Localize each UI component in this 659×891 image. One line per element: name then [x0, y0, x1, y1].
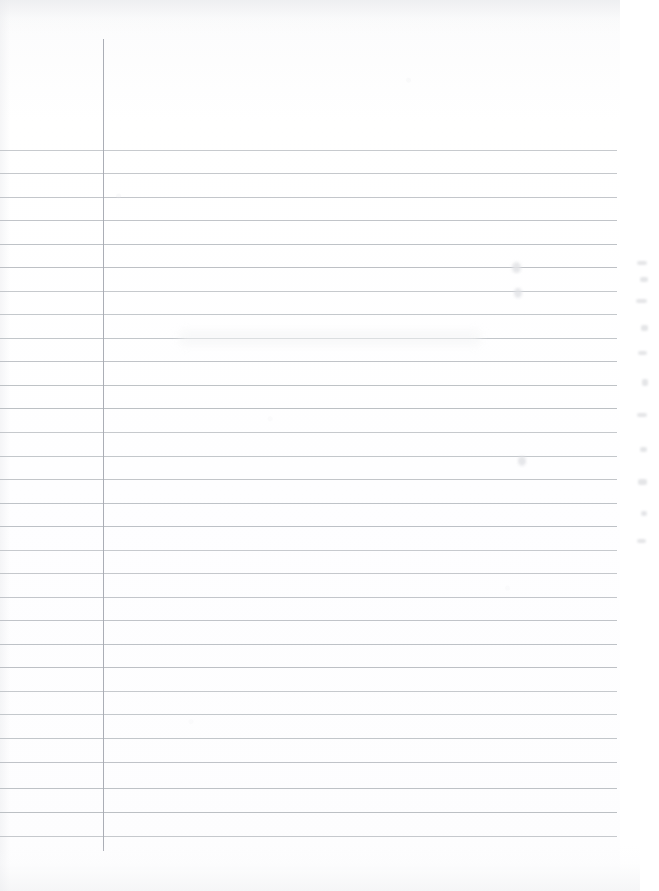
paper-grain-overlay — [0, 0, 659, 891]
rule-line — [0, 267, 617, 268]
rule-line — [0, 173, 617, 174]
pencil-smudge-mid — [514, 288, 522, 298]
rule-line — [0, 667, 617, 668]
scan-artifact-fleck — [637, 413, 647, 417]
rule-line — [0, 479, 617, 480]
right-edge-scan-artifacts — [633, 255, 655, 565]
rule-line — [0, 503, 617, 504]
rule-line — [0, 836, 617, 837]
pencil-smudge-lower — [518, 456, 526, 466]
rule-line — [0, 550, 617, 551]
rule-line — [0, 314, 617, 315]
rule-line — [0, 385, 617, 386]
scan-artifact-fleck — [637, 539, 646, 543]
rule-line — [0, 361, 617, 362]
scan-artifact-fleck — [640, 447, 647, 452]
rule-line — [0, 456, 617, 457]
rule-line — [0, 408, 617, 409]
scanned-page — [0, 0, 659, 891]
rule-line — [0, 573, 617, 574]
scan-artifact-fleck — [636, 299, 647, 303]
rule-line — [0, 338, 617, 339]
scan-artifact-fleck — [641, 325, 648, 331]
bottom-scan-shadow — [0, 845, 640, 891]
rule-line — [0, 691, 617, 692]
scan-artifact-fleck — [638, 479, 647, 485]
scan-artifact-fleck — [642, 379, 648, 386]
rule-line — [0, 788, 617, 789]
scan-artifact-fleck — [640, 277, 648, 282]
top-scan-shadow — [0, 0, 620, 34]
rule-line — [0, 644, 617, 645]
scan-artifact-fleck — [637, 261, 647, 265]
scan-artifact-fleck — [641, 511, 647, 516]
rule-line — [0, 620, 617, 621]
rule-line — [0, 526, 617, 527]
rule-line — [0, 150, 617, 151]
vertical-margin-line — [103, 39, 104, 851]
scan-artifact-fleck — [638, 351, 647, 355]
rule-line — [0, 812, 617, 813]
rule-line — [0, 597, 617, 598]
rule-line — [0, 197, 617, 198]
rule-line — [0, 762, 617, 763]
rule-line — [0, 291, 617, 292]
rule-line — [0, 244, 617, 245]
rule-line — [0, 738, 617, 739]
paper-surface — [0, 0, 620, 870]
rule-line — [0, 714, 617, 715]
left-edge-shade — [0, 0, 10, 891]
rule-line — [0, 432, 617, 433]
rule-line — [0, 220, 617, 221]
